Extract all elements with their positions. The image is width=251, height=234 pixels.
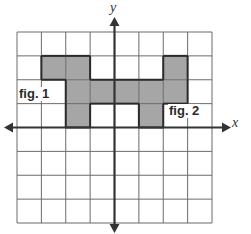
shaded-cell bbox=[163, 80, 187, 104]
y-axis-down-arrow-icon bbox=[110, 224, 120, 233]
shaded-cell bbox=[66, 104, 90, 128]
fig-2-label: fig. 2 bbox=[168, 104, 200, 118]
coordinate-grid-diagram: fig. 1 fig. 2 x y bbox=[0, 0, 251, 234]
shaded-cell bbox=[115, 80, 139, 104]
x-axis-left-arrow-icon bbox=[4, 123, 13, 133]
shaded-cell bbox=[66, 56, 90, 80]
shaded-cell bbox=[90, 80, 114, 104]
fig-1-label: fig. 1 bbox=[18, 87, 50, 101]
shaded-cell bbox=[41, 56, 65, 80]
shaded-cell bbox=[163, 56, 187, 80]
y-axis-label: y bbox=[110, 0, 116, 16]
x-axis-right-arrow-icon bbox=[222, 123, 231, 133]
grid-canvas bbox=[0, 0, 251, 234]
shaded-cell bbox=[139, 80, 163, 104]
shaded-cell bbox=[66, 80, 90, 104]
shaded-cell bbox=[139, 104, 163, 128]
y-axis-up-arrow-icon bbox=[110, 17, 120, 26]
x-axis-label: x bbox=[232, 115, 238, 131]
